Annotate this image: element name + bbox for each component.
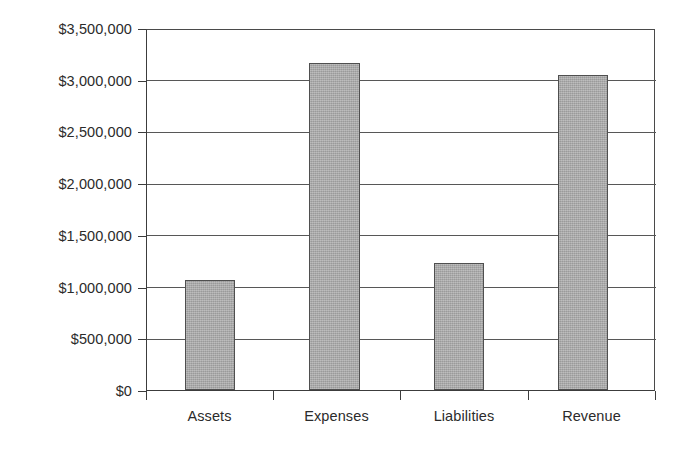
y-axis-tick [138,339,146,340]
y-axis-tick [138,81,146,82]
y-axis-label-1500000: $1,500,000 [58,229,132,244]
x-axis-tick [273,391,274,400]
y-axis-tick [138,236,146,237]
y-axis-label-2000000: $2,000,000 [58,177,132,192]
y-axis-tick [138,288,146,289]
y-axis-label-2500000: $2,500,000 [58,125,132,140]
bar-liabilities [434,263,484,390]
y-axis-tick [138,184,146,185]
x-axis-tick [528,391,529,400]
x-axis-tick [655,391,656,400]
bar-expenses [309,63,360,390]
plot-area [146,29,655,391]
y-axis-label-3000000: $3,000,000 [58,74,132,89]
bar-chart: $3,500,000 $3,000,000 $2,500,000 $2,000,… [0,0,680,454]
y-axis-label-500000: $500,000 [71,332,132,347]
bar-revenue [558,75,608,391]
x-axis-label-expenses: Expenses [273,409,400,424]
x-axis-tick [146,391,147,400]
x-axis-tick [400,391,401,400]
y-axis-tick [138,29,146,30]
x-axis-label-liabilities: Liabilities [400,409,528,424]
bar-assets [185,280,235,390]
x-axis-label-revenue: Revenue [528,409,655,424]
y-axis-tick [138,132,146,133]
x-axis-label-assets: Assets [146,409,273,424]
y-axis-label-0: $0 [116,384,132,399]
y-axis-label-3500000: $3,500,000 [58,22,132,37]
y-axis-label-1000000: $1,000,000 [58,281,132,296]
y-axis-tick [138,391,146,392]
